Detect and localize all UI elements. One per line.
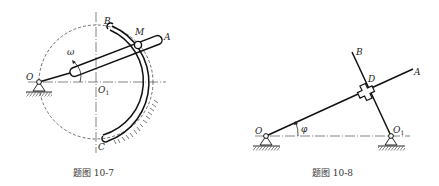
- figure-10-8: O O1 A B D φ 题图 10-8: [253, 47, 421, 178]
- label-B: B: [355, 47, 363, 57]
- crank-rod: [39, 73, 70, 82]
- label-A: A: [413, 67, 421, 77]
- rod-OA: [266, 69, 413, 136]
- label-O: O: [26, 72, 34, 82]
- slotted-arm: [69, 34, 164, 78]
- label-B: B: [103, 16, 111, 26]
- phi-arrow-icon: [294, 121, 298, 136]
- diagram-canvas: O O1 B M A C ω 题图 10-7: [0, 0, 439, 186]
- figure-10-7: O O1 B M A C ω 题图 10-7: [26, 12, 171, 178]
- label-omega: ω: [67, 47, 75, 57]
- label-M: M: [134, 27, 145, 37]
- label-C: C: [98, 142, 105, 152]
- caption-10-8: 题图 10-8: [312, 168, 353, 178]
- label-D: D: [367, 74, 375, 84]
- label-A: A: [163, 32, 171, 42]
- slider-M: [134, 41, 141, 48]
- caption-10-7: 题图 10-7: [73, 168, 114, 178]
- label-O1: O1: [393, 125, 404, 136]
- label-O: O: [255, 126, 263, 136]
- omega-arrow-icon: [72, 60, 81, 82]
- label-phi: φ: [301, 124, 308, 134]
- label-O1: O1: [98, 85, 109, 96]
